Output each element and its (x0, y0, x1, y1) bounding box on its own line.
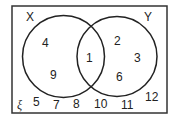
element-outside: 7 (53, 98, 60, 112)
element-outside: 8 (73, 97, 80, 111)
element-y-only: 3 (134, 51, 141, 65)
element-intersection: 1 (86, 51, 93, 65)
element-outside: 12 (145, 90, 159, 104)
universal-set-symbol: ξ (17, 98, 23, 112)
venn-diagram: X Y 4 9 1 2 3 6 ξ 5 7 8 10 11 12 (0, 0, 170, 124)
element-x-only: 9 (50, 68, 57, 82)
element-y-only: 6 (116, 70, 123, 84)
set-x-label: X (26, 10, 34, 24)
element-outside: 11 (121, 98, 134, 112)
element-y-only: 2 (114, 34, 121, 48)
element-outside: 10 (94, 97, 108, 111)
element-x-only: 4 (42, 36, 49, 50)
element-outside: 5 (33, 95, 40, 109)
set-y-label: Y (144, 10, 152, 24)
